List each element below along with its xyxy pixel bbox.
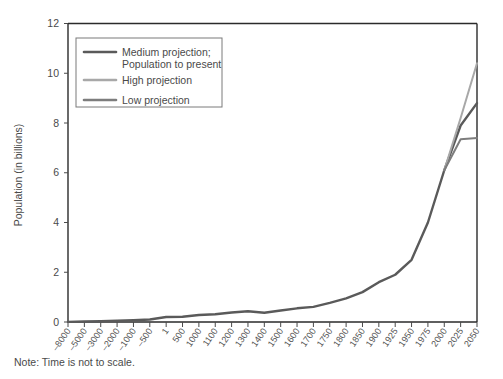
chart-legend: Medium projection; Population to present… xyxy=(76,38,222,107)
population-line-chart: 024681012 –8000–5000–3000–2000–1000–5001… xyxy=(0,0,503,379)
x-tick-label: 1200 xyxy=(217,326,237,348)
x-tick-label: 1750 xyxy=(315,326,335,348)
x-axis-ticks: –8000–5000–3000–2000–1000–50015001000110… xyxy=(50,322,482,353)
y-tick-label: 4 xyxy=(53,216,59,228)
y-axis-title: Population (in billions) xyxy=(12,124,24,227)
y-tick-label: 8 xyxy=(53,117,59,129)
x-tick-label: 1925 xyxy=(380,326,400,348)
x-tick-label: 1700 xyxy=(298,326,318,348)
x-tick-label: 1600 xyxy=(282,326,302,348)
population-projection-figure: 024681012 –8000–5000–3000–2000–1000–5001… xyxy=(0,0,503,379)
y-tick-label: 6 xyxy=(53,166,59,178)
x-tick-label: 2050 xyxy=(462,326,482,348)
series-line-high-projection xyxy=(444,63,477,170)
x-tick-label: –500 xyxy=(135,326,155,348)
legend-label-medium-projection-line2: Population to present xyxy=(122,58,221,70)
legend-label-medium-projection-line1: Medium projection; xyxy=(122,46,211,58)
x-tick-label: 2025 xyxy=(446,326,466,348)
x-tick-label: 1400 xyxy=(249,326,269,348)
x-tick-label: 1850 xyxy=(347,326,367,348)
x-tick-label: 2000 xyxy=(429,326,449,348)
y-axis-ticks: 024681012 xyxy=(47,17,68,328)
x-tick-label: 1000 xyxy=(184,326,204,348)
x-tick-label: 1975 xyxy=(413,326,433,348)
x-tick-label: 1950 xyxy=(397,326,417,348)
y-tick-label: 0 xyxy=(53,316,59,328)
x-tick-label: 1800 xyxy=(331,326,351,348)
legend-label-low-projection: Low projection xyxy=(122,94,190,106)
series-line-medium-projection-population-to-present xyxy=(68,103,477,322)
figure-note: Note: Time is not to scale. xyxy=(14,356,135,368)
y-tick-label: 12 xyxy=(47,17,59,29)
x-tick-label: 1100 xyxy=(201,326,220,348)
x-tick-label: 1900 xyxy=(364,326,384,348)
legend-label-high-projection: High projection xyxy=(122,74,192,86)
x-tick-label: 1300 xyxy=(233,326,253,348)
y-tick-label: 2 xyxy=(53,266,59,278)
y-tick-label: 10 xyxy=(47,67,59,79)
x-tick-label: 1 xyxy=(160,326,171,336)
x-tick-label: 1500 xyxy=(266,326,286,348)
